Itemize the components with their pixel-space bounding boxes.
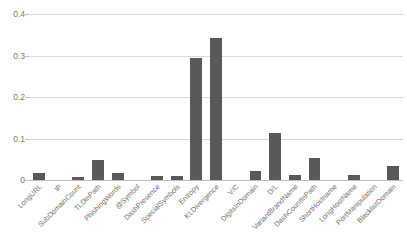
bar <box>210 38 222 180</box>
bar-slot <box>68 14 88 180</box>
y-tick-label: 0.1 <box>0 135 25 144</box>
x-tick-label-text: D/L <box>266 183 280 197</box>
bar-slot <box>49 14 69 180</box>
y-tick-label: 0.3 <box>0 52 25 61</box>
bar-slot <box>29 14 49 180</box>
x-axis-labels: LongURLIPSubDomainCountTLDinPathPhishing… <box>29 181 403 251</box>
x-tick-label-text: LongURL <box>16 183 43 210</box>
y-tick-label: 0.4 <box>0 10 25 19</box>
y-tick-label: 0 <box>0 176 25 185</box>
y-tick-label: 0.2 <box>0 93 25 102</box>
x-tick-label-text: IP <box>53 183 63 193</box>
x-label-slot: BlacklistDomain <box>383 181 403 251</box>
bar-chart: 0.40.30.20.10 LongURLIPSubDomainCountTLD… <box>0 0 407 251</box>
x-tick-label-text: V/C <box>226 183 240 197</box>
